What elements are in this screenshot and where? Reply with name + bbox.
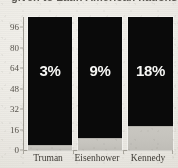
bar-eisenhower[interactable]: 9% bbox=[78, 17, 122, 150]
chart-title: given to Latin American nations bbox=[11, 0, 178, 4]
bar-base-truman bbox=[28, 145, 72, 150]
bar-value-kennedy: 18% bbox=[128, 63, 173, 78]
x-axis-line bbox=[23, 150, 173, 151]
bar-base-eisenhower bbox=[78, 138, 122, 151]
bar-kennedy[interactable]: 18% bbox=[128, 17, 173, 150]
plot-area: 96 80 64 48 32 16 0 3% 9% 18% Tr bbox=[25, 12, 173, 150]
y-tick-mark bbox=[20, 88, 24, 89]
y-axis-line bbox=[23, 17, 24, 150]
bar-value-eisenhower: 9% bbox=[78, 63, 122, 78]
bar-base-kennedy bbox=[128, 126, 173, 150]
x-tick-label-kennedy: Kennedy bbox=[122, 153, 174, 164]
y-tick-label-96: 96 bbox=[10, 23, 19, 32]
y-tick-label-80: 80 bbox=[10, 43, 19, 52]
bar-chart-figure: given to Latin American nations 96 80 64… bbox=[0, 0, 178, 168]
y-tick-mark bbox=[20, 129, 24, 130]
y-tick-mark bbox=[20, 47, 24, 48]
y-tick-mark bbox=[20, 27, 24, 28]
y-tick-label-32: 32 bbox=[10, 105, 19, 114]
y-tick-label-16: 16 bbox=[10, 125, 19, 134]
x-tick-label-eisenhower: Eisenhower bbox=[69, 153, 125, 164]
bar-value-truman: 3% bbox=[28, 63, 72, 78]
y-tick-mark bbox=[20, 109, 24, 110]
y-tick-mark bbox=[20, 68, 24, 69]
y-tick-label-0: 0 bbox=[15, 146, 20, 155]
x-tick-label-truman: Truman bbox=[20, 153, 76, 164]
y-tick-label-64: 64 bbox=[10, 64, 19, 73]
y-tick-label-48: 48 bbox=[10, 84, 19, 93]
bar-truman[interactable]: 3% bbox=[28, 17, 72, 150]
